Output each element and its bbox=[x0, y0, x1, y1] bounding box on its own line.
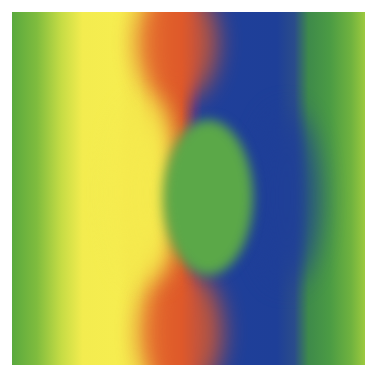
blue-waist-region bbox=[257, 112, 317, 282]
red-top-region bbox=[137, 12, 217, 102]
green-center-ellipse bbox=[163, 120, 253, 275]
red-bottom-region bbox=[140, 267, 222, 365]
color-field-image bbox=[12, 12, 365, 365]
